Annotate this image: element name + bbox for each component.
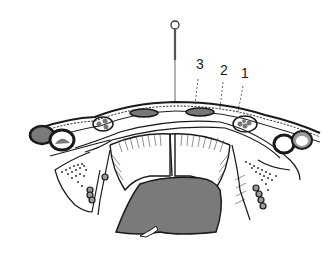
anatomical-figure: 3 2 1 bbox=[0, 0, 336, 254]
label-2: 2 bbox=[220, 62, 228, 78]
label-3: 3 bbox=[196, 56, 204, 72]
central-cavity bbox=[116, 177, 221, 237]
right-vessels bbox=[274, 131, 312, 153]
label-1: 1 bbox=[241, 65, 249, 81]
left-vessels bbox=[30, 126, 74, 150]
right-lateral-structure bbox=[232, 145, 290, 220]
left-lateral-structure bbox=[55, 150, 110, 215]
illustration-svg bbox=[0, 0, 336, 254]
needle-icon bbox=[171, 21, 179, 102]
right-speckles bbox=[245, 161, 277, 191]
left-speckles bbox=[61, 163, 87, 187]
